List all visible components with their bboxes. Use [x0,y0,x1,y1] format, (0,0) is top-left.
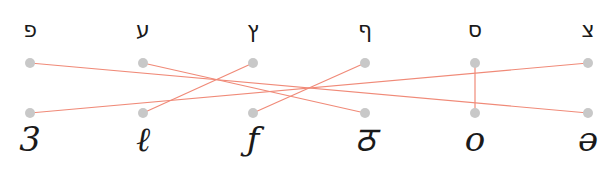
top-dot-4[interactable] [470,58,480,68]
top-dot-1[interactable] [138,58,148,68]
bottom-dot-5[interactable] [583,108,593,118]
bottom-label-0: 3 [19,122,41,156]
bottom-dot-3[interactable] [360,108,370,118]
bottom-label-4: o [465,122,485,156]
connection-line-1 [143,63,365,113]
top-dot-5[interactable] [583,58,593,68]
top-label-0: פ [23,17,37,42]
bottom-label-1: ℓ [136,122,150,156]
top-label-2: ץ [247,17,259,42]
bottom-dot-2[interactable] [248,108,258,118]
connection-line-2 [143,63,253,113]
bottom-label-3: ठ [355,122,375,156]
top-dot-0[interactable] [25,58,35,68]
top-label-3: ף [358,17,372,42]
connection-layer [0,0,615,169]
top-dot-3[interactable] [360,58,370,68]
matching-diagram: פ ע ץ ף ס צ 3 ℓ ƒ ठ o ə [0,0,615,169]
top-label-5: צ [581,17,594,42]
top-dot-2[interactable] [248,58,258,68]
bottom-label-5: ə [578,122,598,156]
bottom-label-2: ƒ [247,122,260,156]
bottom-dot-1[interactable] [138,108,148,118]
top-label-4: ס [468,17,482,42]
top-label-1: ע [136,17,150,42]
bottom-dot-4[interactable] [470,108,480,118]
bottom-dot-0[interactable] [25,108,35,118]
